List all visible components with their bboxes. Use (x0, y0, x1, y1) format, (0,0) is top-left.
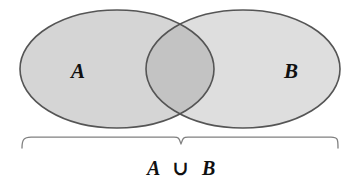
union-caption: A ∪ B (145, 157, 216, 179)
union-operator-icon: ∪ (172, 157, 189, 179)
caption-right-operand: B (201, 157, 216, 179)
set-b-label: B (283, 59, 298, 83)
set-a-label: A (69, 59, 85, 83)
caption-left-operand: A (145, 157, 161, 179)
venn-diagram-canvas: A B A ∪ B (0, 0, 360, 187)
venn-diagram-figure: A B A ∪ B (0, 0, 360, 187)
